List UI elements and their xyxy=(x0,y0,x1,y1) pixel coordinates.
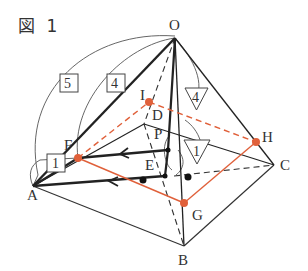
dim-OF-label: 4 xyxy=(111,76,118,91)
dim-OH-label: 4 xyxy=(192,90,199,105)
label-G: G xyxy=(192,207,203,223)
dim-OA-label: 5 xyxy=(64,76,71,91)
point-F xyxy=(74,154,82,162)
point-H xyxy=(252,138,260,146)
label-F: F xyxy=(64,137,72,153)
dim-AF-label: 1 xyxy=(52,156,59,171)
point-I xyxy=(145,98,153,106)
point-G xyxy=(180,199,188,207)
label-A: A xyxy=(27,187,38,203)
label-C: C xyxy=(280,157,290,173)
label-H: H xyxy=(262,129,273,145)
label-E: E xyxy=(145,157,154,173)
pyramid-diagram: 5 4 1 4 1 O A B C D E F G H I P xyxy=(0,0,308,271)
label-O: O xyxy=(169,17,180,33)
label-D: D xyxy=(152,107,163,123)
label-P: P xyxy=(154,126,162,142)
label-I: I xyxy=(140,87,145,103)
dim-HC-label: 1 xyxy=(193,144,200,159)
label-B: B xyxy=(178,252,188,268)
